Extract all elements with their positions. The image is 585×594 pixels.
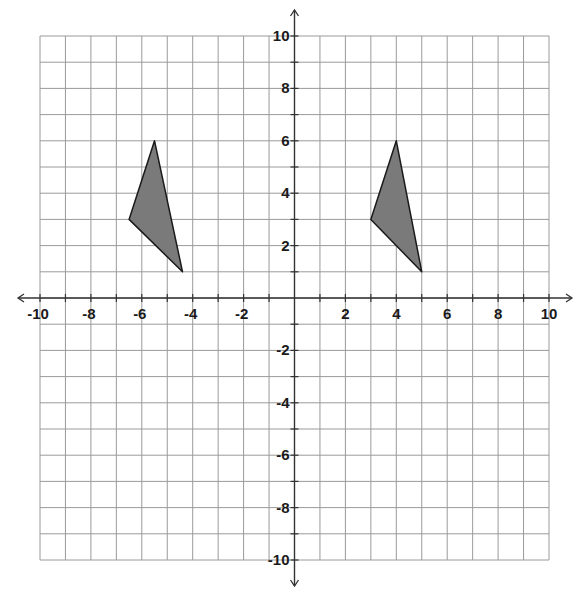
y-axis-label: -8 [276, 499, 289, 516]
coordinate-plane: -10-8-6-4-2246810108642-2-4-6-8-10 [0, 0, 585, 594]
y-axis-label: 8 [281, 79, 289, 96]
y-axis-label: 4 [281, 184, 290, 201]
shapes [129, 141, 422, 272]
y-axis-label: 6 [281, 132, 289, 149]
x-axis-label: -2 [235, 305, 248, 322]
x-axis-label: -4 [184, 305, 198, 322]
axes [18, 10, 572, 586]
y-axis-label: -6 [276, 446, 289, 463]
triangle-left [129, 141, 182, 272]
y-axis-label: 10 [273, 27, 290, 44]
x-axis-label: 4 [392, 305, 401, 322]
y-axis-label: -10 [268, 551, 290, 568]
x-axis-label: 8 [494, 305, 502, 322]
x-axis-label: -6 [133, 305, 146, 322]
y-axis-label: -4 [276, 394, 290, 411]
x-axis-label: 10 [541, 305, 558, 322]
x-axis-label: -10 [27, 305, 49, 322]
y-axis-label: 2 [281, 237, 289, 254]
x-axis-label: 2 [341, 305, 349, 322]
y-axis-label: -2 [276, 341, 289, 358]
x-axis-label: -8 [82, 305, 95, 322]
x-axis-label: 6 [443, 305, 451, 322]
